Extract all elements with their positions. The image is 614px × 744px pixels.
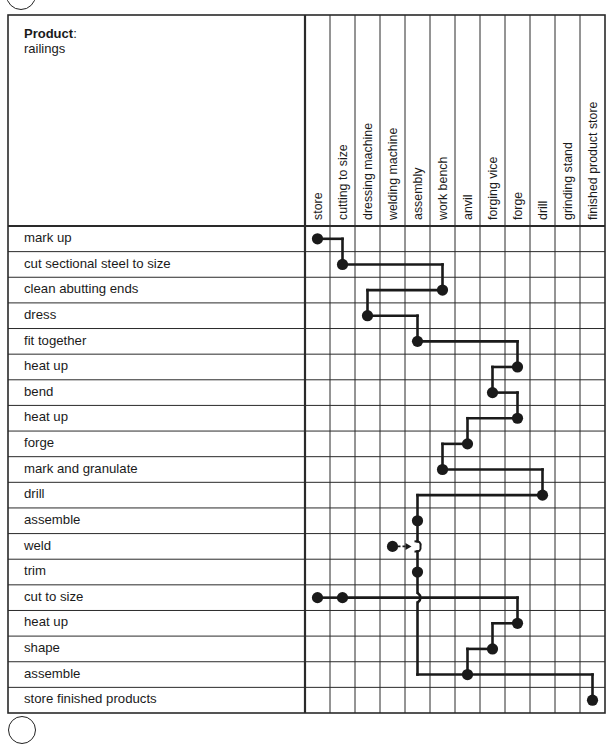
step-label: trim: [24, 563, 46, 578]
column-header-welding-machine: welding machine: [386, 128, 400, 220]
column-header-forge: forge: [511, 192, 525, 220]
column-header-grinding-stand: grinding stand: [561, 142, 575, 220]
product-block: Product: railings: [24, 26, 77, 56]
step-label: heat up: [24, 409, 68, 424]
station-dot: [487, 643, 498, 654]
step-label: cut sectional steel to size: [24, 256, 171, 271]
step-label: shape: [24, 640, 60, 655]
station-dot: [337, 592, 348, 603]
step-label: drill: [24, 486, 45, 501]
station-dot: [512, 413, 523, 424]
station-dot: [487, 387, 498, 398]
arrowhead-icon: [406, 543, 412, 550]
station-dot: [437, 284, 448, 295]
station-dot: [412, 336, 423, 347]
station-dot: [587, 695, 598, 706]
step-label: cut to size: [24, 589, 83, 604]
step-label: heat up: [24, 614, 68, 629]
figure-number-circle-bottom: [8, 716, 36, 744]
station-dot: [437, 464, 448, 475]
station-dot: [462, 438, 473, 449]
column-header-dressing-machine: dressing machine: [361, 123, 375, 220]
step-label: clean abutting ends: [24, 281, 138, 296]
column-header-anvil: anvil: [461, 195, 475, 220]
step-label: heat up: [24, 358, 68, 373]
station-dot: [462, 669, 473, 680]
column-header-drill: drill: [536, 201, 550, 220]
station-dot: [387, 541, 398, 552]
step-label: fit together: [24, 333, 86, 348]
step-label: store finished products: [24, 691, 157, 706]
station-dot: [312, 233, 323, 244]
station-dot: [337, 259, 348, 270]
station-dot: [512, 361, 523, 372]
step-label: assemble: [24, 666, 80, 681]
step-label: mark up: [24, 230, 72, 245]
column-header-cutting-to-size: cutting to size: [336, 144, 350, 220]
column-header-forging-vice: forging vice: [486, 157, 500, 220]
column-header-finished-product-store: finished product store: [586, 102, 600, 220]
step-label: forge: [24, 435, 54, 450]
step-label: mark and granulate: [24, 461, 138, 476]
station-dot: [412, 566, 423, 577]
weld-merge-marker: [415, 541, 421, 551]
step-label: weld: [24, 538, 51, 553]
product-heading: Product: [24, 26, 73, 41]
product-colon: :: [73, 26, 77, 41]
step-label: dress: [24, 307, 56, 322]
station-dot: [512, 618, 523, 629]
station-dot: [312, 592, 323, 603]
column-header-work-bench: work bench: [436, 157, 450, 220]
station-dot: [362, 310, 373, 321]
station-dot: [412, 515, 423, 526]
column-header-store: store: [311, 192, 325, 220]
step-label: bend: [24, 384, 53, 399]
step-label: assemble: [24, 512, 80, 527]
station-dot: [537, 490, 548, 501]
product-name: railings: [24, 41, 65, 56]
column-header-assembly: assembly: [411, 168, 425, 220]
